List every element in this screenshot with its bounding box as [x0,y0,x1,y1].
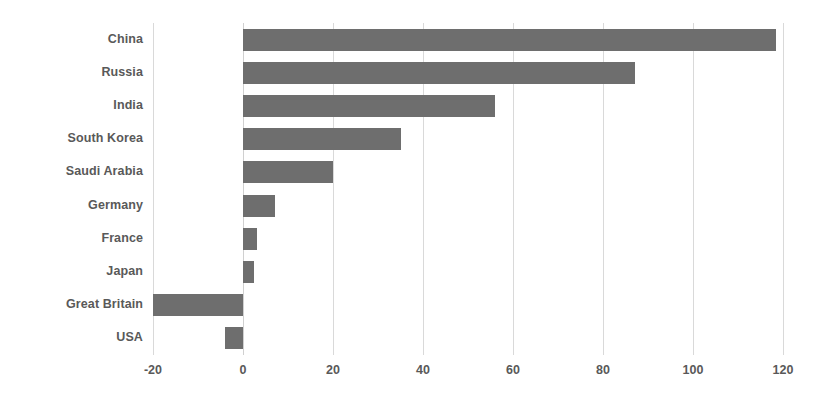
category-label: India [3,98,143,112]
bar [243,161,333,183]
x-tick-label: 60 [506,363,520,377]
bar [243,29,776,51]
x-tick-label: 20 [326,363,340,377]
category-label: South Korea [3,131,143,145]
category-label: Saudi Arabia [3,164,143,178]
category-label: Russia [3,65,143,79]
bar [243,228,257,250]
bar-chart: ChinaRussiaIndiaSouth KoreaSaudi ArabiaG… [0,0,821,398]
bar [243,95,495,117]
bar [243,261,254,283]
x-tick-label: -20 [144,363,162,377]
category-axis: ChinaRussiaIndiaSouth KoreaSaudi ArabiaG… [0,23,143,355]
bar [153,294,243,316]
gridline-120 [783,23,784,355]
x-tick-label: 120 [773,363,794,377]
x-tick-label: 0 [240,363,247,377]
category-label: France [3,231,143,245]
category-label: USA [3,330,143,344]
bar [243,62,635,84]
category-label: Germany [3,198,143,212]
bar [243,195,275,217]
category-label: Japan [3,264,143,278]
x-axis: -20020406080100120 [153,357,783,387]
x-tick-label: 80 [596,363,610,377]
gridline-100 [693,23,694,355]
bar [243,128,401,150]
plot-area [153,23,783,355]
bar [225,327,243,349]
x-tick-label: 100 [683,363,704,377]
x-tick-label: 40 [416,363,430,377]
category-label: Great Britain [3,297,143,311]
category-label: China [3,32,143,46]
